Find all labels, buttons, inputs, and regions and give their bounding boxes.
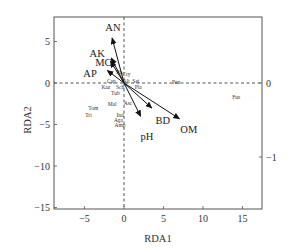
environment-vectors: ANAKMCAPpHBDOM [83,22,198,142]
x-axis-title: RDA1 [144,233,171,244]
species-label: Tri [85,112,92,118]
env-vector-arrow [124,83,179,119]
x-tick-label: −5 [79,213,90,224]
env-vector-label: OM [180,124,198,135]
species-label: Pla [135,84,143,90]
species-label: Pen [172,79,181,85]
y-axis-title: RDA2 [22,106,33,133]
env-vector-label: MC [95,57,111,68]
species-label: Cap [107,78,116,84]
species-label: Tub [111,90,120,96]
x-tick-label: 15 [238,213,248,224]
species-label: Tom [88,105,99,111]
env-vector-label: pH [140,131,153,142]
x-tick-label: 5 [161,213,166,224]
right-tick-label: 0 [266,78,271,89]
y-tick-label: 0 [45,78,50,89]
env-vector-label: AP [83,68,97,79]
env-vector-arrow [112,38,124,83]
env-vector-label: AN [105,22,121,33]
env-vector-label: BD [155,115,170,126]
y-tick-label: −10 [34,161,50,172]
species-label: Kaz [101,84,110,90]
species-label: Sei [132,78,140,84]
axis-tick-labels: −505101550−5−10−150−1 [34,36,276,224]
y-tick-label: −15 [34,202,50,213]
y-tick-label: −5 [39,119,50,130]
species-label: Asc [124,100,133,106]
y-tick-label: 5 [45,36,50,47]
species-label: Cry [122,71,131,77]
species-label: Mal [108,101,117,107]
x-tick-label: 0 [122,213,127,224]
species-label: Amp [115,122,126,128]
x-tick-label: 10 [198,213,208,224]
species-label: Fus [232,94,240,100]
rda-biplot: −505101550−5−10−150−1 PuCryCapAltSeiKazS… [0,0,289,250]
right-tick-label: −1 [266,152,277,163]
